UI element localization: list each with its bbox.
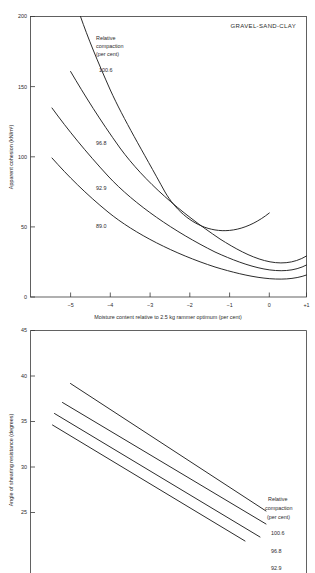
line-angle-100-6 <box>71 384 267 512</box>
line-angle-96-8 <box>63 403 267 525</box>
bottom-legend-title-line1: Relative <box>268 496 287 502</box>
curve-cohesion-96-8 <box>71 72 307 263</box>
top-xtick-label-m5: −5 <box>68 302 74 308</box>
top-ytick-label-50: 50 <box>21 224 27 230</box>
bottom-legend-title-line3: (per cent) <box>267 514 290 520</box>
bottom-ytick-label-45: 45 <box>21 327 27 333</box>
bottom-ytick-label-35: 35 <box>21 418 27 424</box>
top-chart-x-ticks <box>71 293 307 298</box>
bottom-curve-label-96-8: 96.8 <box>271 548 282 554</box>
top-legend-title-line2: compaction <box>96 43 124 49</box>
top-ytick-label-200: 200 <box>18 13 27 19</box>
top-xtick-label-m4: −4 <box>107 302 113 308</box>
top-curve-label-92-9: 92.9 <box>96 185 107 191</box>
top-xtick-label-p1: +1 <box>303 302 309 308</box>
top-chart-yaxis-title: Apparent cohesion (kN/m²) <box>8 125 14 190</box>
top-ytick-label-150: 150 <box>18 84 27 90</box>
bottom-chart-y-ticks <box>31 331 36 513</box>
bottom-curve-label-100-6: 100.6 <box>271 530 285 536</box>
bottom-chart-frame <box>31 331 307 573</box>
bottom-ytick-label-30: 30 <box>21 464 27 470</box>
curve-cohesion-92-9 <box>52 108 307 271</box>
top-xtick-label-m1: −1 <box>227 302 233 308</box>
top-chart-legend: Relative compaction (per cent) <box>96 35 124 57</box>
chart-angle-shearing-resistance: 45 40 35 30 25 Angle of shearing resista… <box>8 327 307 573</box>
bottom-chart-yaxis-title: Angle of shearing resistance (degrees) <box>8 414 14 507</box>
top-curve-label-89-0: 89.0 <box>96 223 107 229</box>
top-xtick-label-m3: −3 <box>147 302 153 308</box>
top-curve-label-96-8: 96.8 <box>96 140 107 146</box>
top-ytick-label-0: 0 <box>24 294 27 300</box>
bottom-chart-legend: Relative compaction (per cent) <box>265 496 293 520</box>
curve-cohesion-89-0 <box>52 158 307 279</box>
top-xtick-label-0: 0 <box>268 302 271 308</box>
line-angle-89-0 <box>53 425 246 541</box>
top-curve-label-100-6: 100.6 <box>99 67 113 73</box>
top-legend-title-line3: (per cent) <box>96 51 119 57</box>
bottom-ytick-label-40: 40 <box>21 373 27 379</box>
top-chart-y-ticks <box>31 17 36 298</box>
top-chart-xaxis-title: Moisture content relative to 2.5 kg ramm… <box>94 314 242 320</box>
bottom-ytick-label-25: 25 <box>21 509 27 515</box>
charts-svg: 200 150 100 50 0 −5 −4 −3 −2 −1 0 +1 <box>0 0 315 573</box>
top-chart-frame <box>31 17 307 298</box>
top-xtick-label-m2: −2 <box>187 302 193 308</box>
line-angle-92-9 <box>55 414 261 538</box>
chart-apparent-cohesion: 200 150 100 50 0 −5 −4 −3 −2 −1 0 +1 <box>8 13 310 320</box>
top-legend-title-line1: Relative <box>96 35 115 41</box>
figure-container: 200 150 100 50 0 −5 −4 −3 −2 −1 0 +1 <box>0 0 315 573</box>
chart-material-title: GRAVEL-SAND-CLAY <box>231 23 296 29</box>
bottom-legend-title-line2: compaction <box>265 505 293 511</box>
top-ytick-label-100: 100 <box>18 154 27 160</box>
bottom-curve-label-92-9: 92.9 <box>271 565 282 571</box>
